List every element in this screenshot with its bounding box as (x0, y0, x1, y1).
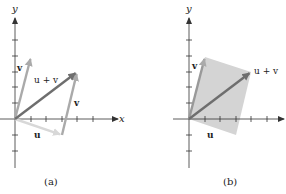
vector-v-label: v (191, 61, 198, 71)
vector-u-plus-v-label: u + v (254, 66, 279, 76)
vector-v-label: v (16, 63, 23, 73)
panel-b: y v u + v u (b) (173, 3, 284, 187)
y-axis-label: y (185, 3, 192, 14)
vector-u-plus-v-label: u + v (34, 75, 59, 85)
caption-a: (a) (44, 176, 58, 187)
y-axis-label: y (11, 3, 18, 14)
vector-u-label: u (207, 130, 214, 140)
vector-u-label: u (34, 130, 41, 140)
vector-addition-diagram: y x v u + v v u (a) (0, 0, 286, 194)
x-axis-label: x (119, 113, 125, 124)
caption-b: (b) (223, 176, 237, 187)
vector-v-translated-label: v (73, 98, 80, 108)
panel-a: y x v u + v v u (a) (0, 3, 125, 187)
